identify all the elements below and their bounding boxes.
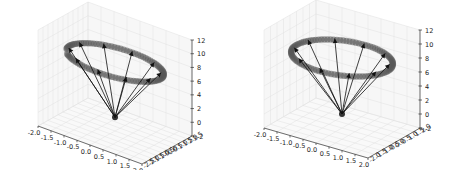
x-tick-label: 1.0 [333, 154, 343, 162]
x-tick-label: -1.0 [54, 139, 67, 147]
x-tick-label: 0.5 [94, 153, 104, 161]
x-tick-label: 0.0 [81, 148, 91, 156]
z-tick-label: 10 [425, 41, 433, 49]
x-tick-label: 0.5 [320, 150, 330, 158]
x-tick-label: 2.0 [133, 167, 143, 170]
x-tick-label: -2.0 [254, 131, 267, 139]
z-tick-label: 4 [197, 91, 201, 99]
z-tick-label: 8 [425, 55, 429, 63]
x-tick-label: -1.0 [280, 139, 293, 147]
x-tick-label: -2.0 [28, 129, 41, 137]
x-tick-label: 1.5 [120, 162, 130, 170]
z-tick-label: 4 [425, 83, 429, 91]
z-tick-label: -2 [197, 133, 203, 141]
subplot-left: -2.0-1.5-1.0-0.50.00.51.01.52.0-2.5-2.0-… [0, 0, 225, 170]
subplot-right: -2.0-1.5-1.0-0.50.00.51.01.52.0-2.0-1.5-… [226, 0, 451, 170]
x-tick-label: 1.5 [346, 157, 356, 165]
x-tick-label: 2.0 [359, 161, 369, 169]
chart-3d-left: -2.0-1.5-1.0-0.50.00.51.01.52.0-2.5-2.0-… [0, 0, 225, 170]
chart-3d-right: -2.0-1.5-1.0-0.50.00.51.01.52.0-2.0-1.5-… [226, 0, 451, 170]
z-tick-label: 2 [425, 97, 429, 105]
z-tick-label: 0 [197, 119, 201, 127]
z-tick-label: 10 [197, 50, 205, 58]
z-tick-label: 6 [425, 69, 429, 77]
x-tick-label: -0.5 [293, 142, 306, 150]
axes-3d: -2.0-1.5-1.0-0.50.00.51.01.52.0-2.5-2.0-… [28, 2, 206, 170]
x-tick-label: -1.5 [267, 135, 280, 143]
z-tick-label: 0 [425, 111, 429, 119]
z-tick-label: 8 [197, 64, 201, 72]
z-tick-label: 2 [197, 105, 201, 113]
x-tick-label: -0.5 [67, 143, 80, 151]
z-tick-label: 12 [425, 27, 433, 35]
z-tick-label: -2 [425, 125, 431, 133]
axes-3d: -2.0-1.5-1.0-0.50.00.51.01.52.0-2.0-1.5-… [254, 0, 434, 169]
x-tick-label: 0.0 [307, 146, 317, 154]
x-tick-label: 1.0 [107, 158, 117, 166]
z-tick-label: 6 [197, 78, 201, 86]
z-tick-label: 12 [197, 37, 205, 45]
x-tick-label: -1.5 [41, 134, 54, 142]
